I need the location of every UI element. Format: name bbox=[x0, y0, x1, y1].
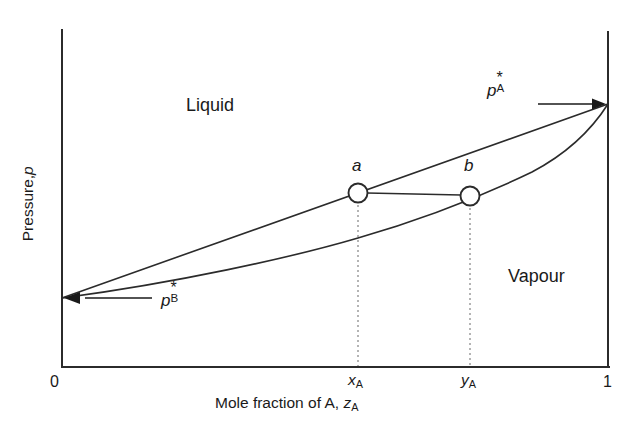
region-label-vapour: Vapour bbox=[508, 267, 565, 285]
x-tick-label-ya: yA bbox=[461, 372, 476, 390]
x-axis-title-text: Mole fraction of A, bbox=[215, 394, 339, 411]
callout-label-pb-subscript: B bbox=[170, 293, 178, 305]
x-tick-label-1: 1 bbox=[603, 374, 612, 390]
point-label-b: b bbox=[464, 157, 473, 174]
point-label-a: a bbox=[352, 157, 361, 174]
callout-label-pa-subscript: A bbox=[496, 83, 504, 95]
x-axis-title: Mole fraction of A, zA bbox=[215, 395, 358, 413]
x-tick-label-ya-subscript: A bbox=[469, 378, 476, 390]
y-axis-title: Pressure,p bbox=[20, 124, 36, 284]
x-axis-title-variable: z bbox=[343, 394, 351, 411]
marker-point-a[interactable] bbox=[349, 184, 368, 203]
plot-canvas bbox=[0, 0, 640, 440]
phase-diagram-figure: Pressure,p Mole fraction of A, zA Liquid… bbox=[0, 0, 640, 440]
x-axis-title-subscript: A bbox=[351, 401, 358, 413]
callout-label-pb: p*B bbox=[161, 289, 181, 309]
tie-line bbox=[367, 193, 461, 195]
callout-label-pa-variable: p bbox=[487, 81, 496, 100]
region-label-liquid: Liquid bbox=[186, 96, 234, 114]
x-tick-label-xa: xA bbox=[348, 372, 363, 390]
x-tick-label-xa-variable: x bbox=[348, 371, 356, 388]
y-axis-title-variable: p bbox=[19, 166, 36, 175]
callout-label-pa: p*A bbox=[487, 79, 507, 99]
marker-point-b[interactable] bbox=[461, 187, 480, 206]
callout-label-pb-variable: p bbox=[161, 291, 170, 310]
y-axis-title-text: Pressure, bbox=[19, 175, 36, 241]
x-tick-label-ya-variable: y bbox=[461, 371, 469, 388]
x-tick-label-xa-subscript: A bbox=[356, 378, 363, 390]
x-tick-label-0: 0 bbox=[50, 374, 59, 390]
